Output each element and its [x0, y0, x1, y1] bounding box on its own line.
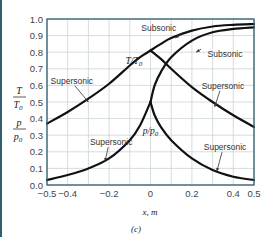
- series-line: [151, 27, 255, 102]
- x-axis-label: x, m: [142, 207, 158, 217]
- regime-label: Subsonic: [208, 49, 244, 59]
- y-tick-label: 0.4: [30, 113, 43, 124]
- x-tick-label: −0.2: [100, 188, 119, 199]
- y-tick-label: 1.0: [30, 14, 43, 25]
- y-axis-ticks: 0.00.10.20.30.40.50.60.70.80.91.0: [30, 14, 43, 191]
- y-tick-label: 0.3: [30, 130, 43, 141]
- x-tick-label: 0.5: [247, 188, 260, 199]
- y-tick-label: 0.7: [30, 63, 43, 74]
- regime-label: Supersonic: [202, 81, 245, 91]
- t-numerator: T: [16, 85, 23, 96]
- p-numerator: p: [16, 117, 22, 128]
- x-tick-label: −0.4: [58, 188, 77, 199]
- x-tick-label: 0.2: [185, 188, 198, 199]
- x-axis-ticks: −0.5−0.4−0.200.20.40.5: [38, 188, 261, 199]
- y-tick-label: 0.1: [30, 163, 43, 174]
- t-denominator: T0: [13, 99, 23, 112]
- regime-label: Subsonic: [141, 23, 177, 33]
- regime-label: Supersonic: [90, 137, 133, 147]
- y-tick-label: 0.8: [30, 47, 43, 58]
- regime-label: Supersonic: [51, 76, 94, 86]
- x-tick-label: 0.4: [227, 188, 240, 199]
- x-tick-label: 0: [148, 188, 153, 199]
- regime-label: Supersonic: [204, 142, 247, 152]
- figure-caption: (c): [131, 224, 141, 234]
- y-tick-label: 0.9: [30, 30, 43, 41]
- p-denominator: p0: [13, 131, 23, 144]
- chart: 0.00.10.20.30.40.50.60.70.80.91.0 −0.5−0…: [0, 0, 267, 237]
- y-axis-label-p-ratio: p p0: [13, 117, 26, 144]
- x-tick-label: −0.5: [38, 188, 57, 199]
- y-axis-label-t-ratio: T T0: [13, 85, 26, 112]
- y-tick-label: 0.2: [30, 146, 43, 157]
- annotations: SubsonicSubsonicT/T0SupersonicSupersonic…: [51, 23, 247, 172]
- y-tick-label: 0.5: [30, 97, 43, 108]
- y-tick-label: 0.6: [30, 80, 43, 91]
